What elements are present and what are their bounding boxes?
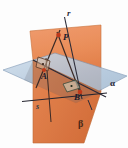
label-line-r: r — [67, 9, 71, 18]
point-P — [56, 33, 61, 38]
label-point-A: A — [41, 72, 47, 81]
diagram-canvas: r P A B s α β — [0, 0, 128, 148]
label-plane-beta: β — [78, 119, 83, 129]
label-point-B: B — [74, 93, 80, 102]
label-point-P: P — [63, 33, 69, 42]
label-line-s: s — [36, 103, 39, 111]
label-plane-alpha: α — [110, 79, 115, 88]
geometry-figure — [0, 0, 128, 148]
